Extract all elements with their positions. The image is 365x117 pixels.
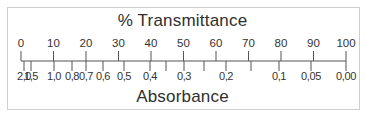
absorbance-title: Absorbance [0,87,365,107]
transmittance-ticks [21,51,346,61]
absorbance-ticks [24,61,346,71]
